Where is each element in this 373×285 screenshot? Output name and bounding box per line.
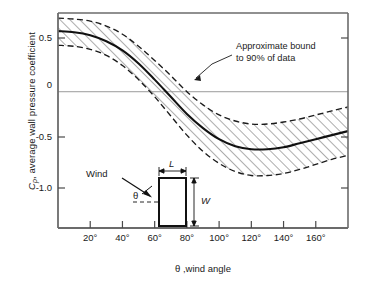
x-tick-label-4: 100° (202, 232, 236, 243)
annotation-leader-line (196, 55, 232, 78)
x-tick-label-6: 140° (267, 232, 301, 243)
x-axis-title: θ ,wind angle (58, 263, 348, 274)
inset-length-label: L (169, 158, 174, 169)
annotation-line-1: Approximate bound (236, 41, 316, 53)
inset-wind-label: Wind (86, 168, 108, 179)
x-tick-label-2: 60° (138, 232, 172, 243)
x-tick-label-0: 20° (73, 232, 107, 243)
annotation-arrowhead-icon (194, 75, 201, 81)
x-tick-label-1: 40° (105, 232, 139, 243)
x-tick-label-5: 120° (234, 232, 268, 243)
y-tick-label-2: -0.5 (18, 131, 52, 142)
y-tick-label-0: 0.5 (18, 32, 52, 43)
inset-theta-label: θ (133, 190, 138, 201)
x-tick-label-7: 160° (299, 232, 333, 243)
width-dimension-arrow (190, 178, 199, 226)
figure-container: Cp, average wall pressure coefficient 0.… (0, 0, 373, 285)
y-tick-label-1: 0 (18, 79, 52, 90)
x-tick-label-3: 80° (170, 232, 204, 243)
inset-width-label: W (201, 195, 210, 206)
y-axis-title-text: , average wall pressure coefficient (26, 32, 37, 179)
annotation-line-2: to 90% of data (236, 53, 295, 65)
y-tick-label-3: -1.0 (18, 182, 52, 193)
